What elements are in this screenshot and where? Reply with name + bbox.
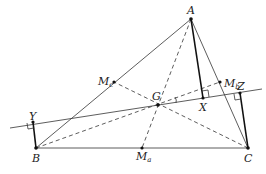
label-ma: Ma <box>135 150 151 164</box>
point-x <box>201 96 204 99</box>
label-a: A <box>186 4 195 17</box>
point-b <box>34 146 38 150</box>
perpendicular-by <box>33 122 36 148</box>
median-a <box>142 19 191 148</box>
point-c <box>246 146 250 150</box>
point-mb <box>218 80 221 83</box>
label-mc-main: M <box>97 75 110 88</box>
label-g: G <box>152 90 161 103</box>
perpendicular-ax <box>191 19 203 98</box>
label-y: Y <box>29 110 38 123</box>
label-b: B <box>31 152 40 165</box>
median-c <box>114 82 248 148</box>
label-ma-sub: a <box>147 156 151 164</box>
label-mb-sub: b <box>235 83 240 91</box>
centroid-diagram: A B C G X Y Z Ma Mb Mc <box>0 0 266 174</box>
median-b <box>36 82 220 148</box>
label-mb-main: M <box>223 77 236 90</box>
label-mc-sub: c <box>109 81 113 89</box>
label-ma-main: M <box>135 150 148 163</box>
label-c: C <box>244 152 253 165</box>
point-g <box>156 103 160 107</box>
point-a <box>189 17 193 21</box>
label-x: X <box>198 101 208 114</box>
label-mc: Mc <box>97 75 113 89</box>
